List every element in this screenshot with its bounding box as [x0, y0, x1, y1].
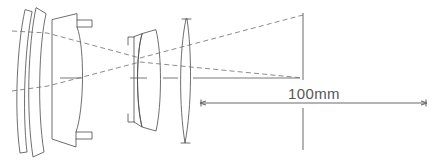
- lens-cross-section-svg: 100mm: [0, 0, 444, 163]
- lens-element-thick-negative: [52, 14, 92, 147]
- lens-mount-notch-top: [128, 37, 134, 45]
- lens-outline-path: [52, 14, 83, 147]
- lens-mount-notch-bottom: [128, 114, 134, 122]
- lens-outline-path: [29, 8, 46, 157]
- lens-mount-bottom-edge: [76, 132, 92, 139]
- lens-outline-path: [134, 34, 142, 127]
- lens-mount-top-edge: [77, 20, 92, 27]
- scale-label-text: 100mm: [288, 85, 340, 102]
- lens-diagram-canvas: 100mm: [0, 0, 444, 163]
- lens-element-front-meniscus-inner: [29, 8, 46, 157]
- lens-element-rear-biconvex: [181, 19, 191, 143]
- lens-element-doublet-front: [128, 34, 142, 127]
- ray-bundle-group: [12, 15, 303, 91]
- lens-outline-path: [181, 19, 191, 143]
- lens-element-doublet-rear: [138, 30, 161, 131]
- lower-field-ray: [12, 62, 303, 91]
- lens-outline-path: [138, 30, 161, 131]
